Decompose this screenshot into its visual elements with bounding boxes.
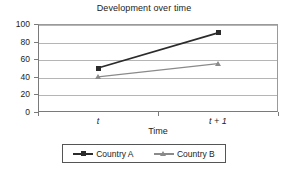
series-line-country-b <box>98 64 218 77</box>
x-axis-tick-label: t + 1 <box>188 116 248 126</box>
data-point-country-b <box>95 74 101 79</box>
data-point-country-a <box>96 66 101 71</box>
series-line-country-a <box>98 33 218 68</box>
data-point-country-b <box>215 61 221 66</box>
legend-label-country-b: Country B <box>177 149 215 159</box>
legend-item-country-a[interactable]: Country A <box>73 149 133 159</box>
x-axis-title: Time <box>38 126 278 136</box>
x-axis-tick-mark <box>158 112 159 116</box>
data-point-country-a <box>216 30 221 35</box>
legend-label-country-a: Country A <box>96 149 133 159</box>
legend-marker-square <box>73 149 93 158</box>
legend-item-country-b[interactable]: Country B <box>154 149 215 159</box>
legend-marker-triangle <box>154 149 174 158</box>
chart-legend: Country A Country B <box>62 144 226 163</box>
chart-container: Development over time 020406080100 tt + … <box>0 0 288 173</box>
x-axis-tick-mark <box>38 112 39 116</box>
x-axis-tick-mark <box>278 112 279 116</box>
x-axis-tick-label: t <box>68 116 128 126</box>
